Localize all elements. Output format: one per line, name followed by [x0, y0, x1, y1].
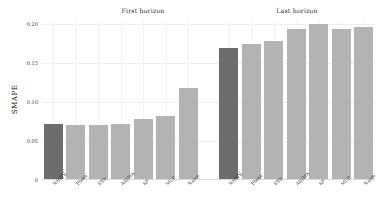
bar-last-horizon-ETS [264, 41, 283, 179]
y-tick-label-0: 0 [16, 177, 38, 183]
bar-first-horizon-Naive [179, 88, 198, 179]
bar-first-horizon-MLP [156, 116, 175, 179]
bar-last-horizon-Theta [242, 44, 261, 179]
bar-last-horizon-Naive [354, 27, 373, 179]
bar-first-horizon-ETS [89, 125, 108, 179]
bar-last-horizon-ARIMA [287, 29, 306, 179]
y-tick-label-0.10: 0.10 [16, 99, 38, 105]
bar-first-horizon-Theta [66, 125, 85, 179]
bar-first-horizon-NHITS [44, 124, 63, 179]
y-tick-label-0.20: 0.20 [16, 21, 38, 27]
bar-last-horizon-MLP [332, 29, 351, 179]
bar-first-horizon-ARIMA [111, 124, 130, 179]
panel-title-first-horizon: First horizon [98, 7, 188, 14]
smape-bar-chart: First horizon Last horizon SMAPE 00.050.… [0, 0, 377, 220]
plot-area [42, 20, 375, 180]
bar-last-horizon-RF [309, 24, 328, 179]
bar-last-horizon-NHITS [219, 48, 238, 179]
bar-first-horizon-RF [134, 119, 153, 179]
panel-title-last-horizon: Last horizon [252, 7, 342, 14]
y-tick-label-0.15: 0.15 [16, 60, 38, 66]
y-tick-label-0.05: 0.05 [16, 138, 38, 144]
